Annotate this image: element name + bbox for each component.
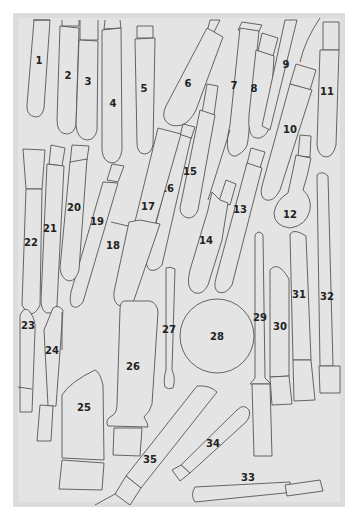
svg-text:22: 22 [24, 237, 38, 248]
shape-30: 30 [270, 267, 292, 405]
svg-text:10: 10 [283, 124, 297, 135]
svg-text:3: 3 [85, 76, 92, 87]
shape-11: 11 [317, 22, 339, 157]
svg-text:30: 30 [273, 321, 287, 332]
svg-text:23: 23 [21, 320, 35, 331]
svg-text:2: 2 [65, 70, 72, 81]
svg-text:9: 9 [283, 59, 290, 70]
svg-text:24: 24 [45, 345, 59, 356]
svg-text:33: 33 [241, 472, 255, 483]
shape-1: 1 [27, 20, 50, 117]
shape-3: 3 [76, 20, 98, 140]
svg-text:32: 32 [320, 291, 334, 302]
svg-text:12: 12 [283, 209, 297, 220]
svg-text:34: 34 [206, 438, 220, 449]
shape-2: 2 [57, 20, 79, 134]
shape-31: 31 [290, 231, 315, 401]
shape-32: 32 [317, 173, 340, 393]
shape-27: 27 [162, 267, 176, 389]
shape-26: 26 [107, 301, 158, 456]
svg-text:8: 8 [251, 83, 258, 94]
shape-4: 4 [102, 20, 122, 163]
svg-text:25: 25 [77, 402, 91, 413]
svg-text:6: 6 [185, 78, 192, 89]
svg-text:17: 17 [141, 201, 155, 212]
svg-text:14: 14 [199, 235, 213, 246]
shape-24: 24 [37, 306, 63, 441]
svg-text:13: 13 [233, 204, 247, 215]
shape-5: 5 [135, 26, 155, 154]
shape-28: 28 [180, 299, 254, 373]
svg-text:5: 5 [141, 83, 148, 94]
svg-text:27: 27 [162, 324, 176, 335]
svg-text:21: 21 [43, 223, 57, 234]
svg-text:18: 18 [106, 240, 120, 251]
svg-text:29: 29 [253, 312, 267, 323]
svg-text:20: 20 [67, 202, 81, 213]
tool-shapes-diagram: 1 2 3 4 5 6 7 8 [0, 0, 356, 520]
svg-text:11: 11 [320, 86, 334, 97]
svg-text:15: 15 [183, 166, 197, 177]
svg-text:1: 1 [36, 55, 43, 66]
svg-text:35: 35 [143, 454, 157, 465]
shape-21: 21 [41, 145, 65, 313]
svg-text:31: 31 [292, 289, 306, 300]
shape-23: 23 [18, 309, 35, 412]
svg-text:19: 19 [90, 216, 104, 227]
svg-text:4: 4 [110, 98, 117, 109]
svg-text:7: 7 [231, 80, 238, 91]
svg-text:28: 28 [210, 331, 224, 342]
shape-25: 25 [59, 370, 104, 490]
svg-text:26: 26 [126, 361, 140, 372]
shape-33: 33 [193, 472, 324, 502]
